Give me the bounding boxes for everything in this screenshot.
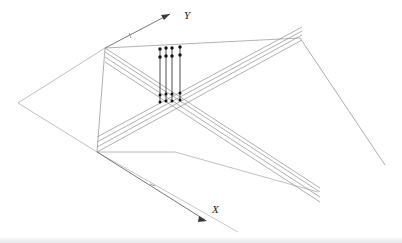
marker-dot [159, 101, 162, 104]
y-axis-line [105, 14, 170, 48]
y-axis-arrowhead [161, 14, 170, 20]
upper-rail-3 [105, 57, 320, 197]
marker-dot [178, 45, 181, 48]
lower-rail-1 [97, 40, 302, 152]
x-axis-arrowhead [198, 216, 207, 222]
ledge-group [97, 152, 318, 192]
marker-dot [158, 47, 161, 50]
x-axis-line [97, 152, 205, 220]
base-plane-edge-top-left [18, 48, 105, 103]
marker-dot [178, 53, 181, 56]
y-axis-label: Y [184, 9, 192, 21]
y-axis-group: Y [105, 9, 192, 48]
marker-dot [165, 100, 168, 103]
marker-dot [164, 54, 167, 57]
lower-rail-2 [97, 35, 302, 147]
marker-dot [171, 93, 174, 96]
marker-dot [179, 92, 182, 95]
marker-dot [165, 93, 168, 96]
marker-dot [171, 100, 174, 103]
upper-rail-4 [105, 62, 320, 202]
x-axis-label: X [211, 203, 220, 215]
marker-dot [158, 55, 161, 58]
base-plane-edge-top-right [105, 38, 300, 48]
ledge-descend [175, 152, 318, 192]
upper-rail-2 [105, 52, 320, 192]
base-plane-group [18, 38, 385, 232]
diagram-canvas: Y X [0, 0, 402, 243]
lower-rail-3 [97, 31, 302, 142]
marker-dot [170, 46, 173, 49]
marker-dot [170, 54, 173, 57]
lower-rail-bundle [97, 27, 302, 152]
base-plane-edge-bottom-left [18, 103, 97, 152]
marker-dot [159, 94, 162, 97]
technical-diagram-figure: Y X [0, 0, 402, 243]
marker-dot [179, 99, 182, 102]
base-plane-edge-right [300, 38, 385, 165]
vertical-stem-group [158, 45, 181, 103]
upper-rail-1 [105, 48, 320, 188]
stem-marker-dots [158, 45, 181, 103]
marker-dot [164, 46, 167, 49]
